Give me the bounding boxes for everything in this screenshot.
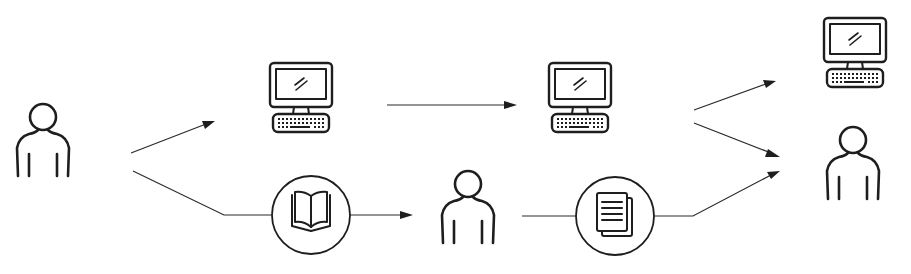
person-icon-target bbox=[827, 127, 879, 199]
book-icon bbox=[292, 192, 330, 231]
edge-book-to-person-middle bbox=[350, 211, 413, 219]
flow-diagram bbox=[0, 0, 911, 274]
edge-document-to-person-target bbox=[654, 171, 780, 216]
edge-source-to-computer-1 bbox=[131, 121, 215, 153]
document-icon bbox=[597, 193, 632, 236]
document-node bbox=[576, 177, 654, 255]
book-node bbox=[272, 176, 350, 254]
person-icon-source bbox=[17, 104, 69, 176]
computer-icon-2 bbox=[549, 63, 611, 132]
computer-icon-3 bbox=[824, 18, 886, 87]
edge-computer-1-to-computer-2 bbox=[387, 101, 517, 109]
edge-source-to-book bbox=[133, 171, 272, 215]
edge-computer-2-to-computer-3 bbox=[694, 80, 776, 110]
edge-computer-2-to-person-target bbox=[694, 123, 780, 157]
person-icon-middle bbox=[442, 171, 494, 243]
computer-icon-1 bbox=[270, 63, 332, 132]
